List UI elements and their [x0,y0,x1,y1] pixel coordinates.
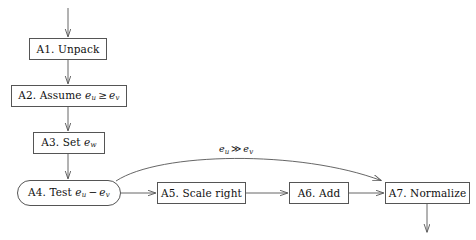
node-a4-prefix: A4. Test [28,186,72,198]
node-a4-label: A4. Test eu−ev [28,187,110,200]
edge-label-sub2: v [249,148,253,156]
node-a2-prefix: A2. Assume [18,89,81,101]
edge-label-bypass-condition: eu≫ev [219,143,253,156]
node-a5-scale-right[interactable]: A5. Scale right [157,182,246,204]
node-a1-unpack[interactable]: A1. Unpack [29,38,107,60]
node-a4-var1: e [75,186,81,198]
node-a7-label: A7. Normalize [389,188,466,199]
node-a2-op: ≥ [96,89,109,101]
node-a4-test[interactable]: A4. Test eu−ev [17,180,121,206]
node-a4-op: − [86,186,99,198]
node-a6-label: A6. Add [298,188,341,199]
node-a4-sub2: v [106,191,110,199]
node-a2-label: A2. Assume eu≥ev [18,90,119,103]
edge-label-op: ≫ [229,143,243,154]
flowchart-canvas: A1. Unpack A2. Assume eu≥ev A3. Set ew A… [0,0,476,240]
edge-label-var1: e [219,143,225,154]
node-a2-assume[interactable]: A2. Assume eu≥ev [11,85,127,107]
node-a2-sub2: v [115,94,119,102]
node-a3-prefix: A3. Set [41,136,80,148]
node-a5-label: A5. Scale right [161,188,242,199]
node-a7-normalize[interactable]: A7. Normalize [385,182,470,204]
node-a1-label: A1. Unpack [37,44,100,55]
node-a3-sub1: w [90,141,96,149]
node-a6-add[interactable]: A6. Add [289,182,349,204]
node-a3-label: A3. Set ew [41,137,96,150]
node-a3-set[interactable]: A3. Set ew [33,132,105,154]
node-a4-var2: e [99,186,105,198]
edge-a4-to-a7-bypass [116,158,381,181]
